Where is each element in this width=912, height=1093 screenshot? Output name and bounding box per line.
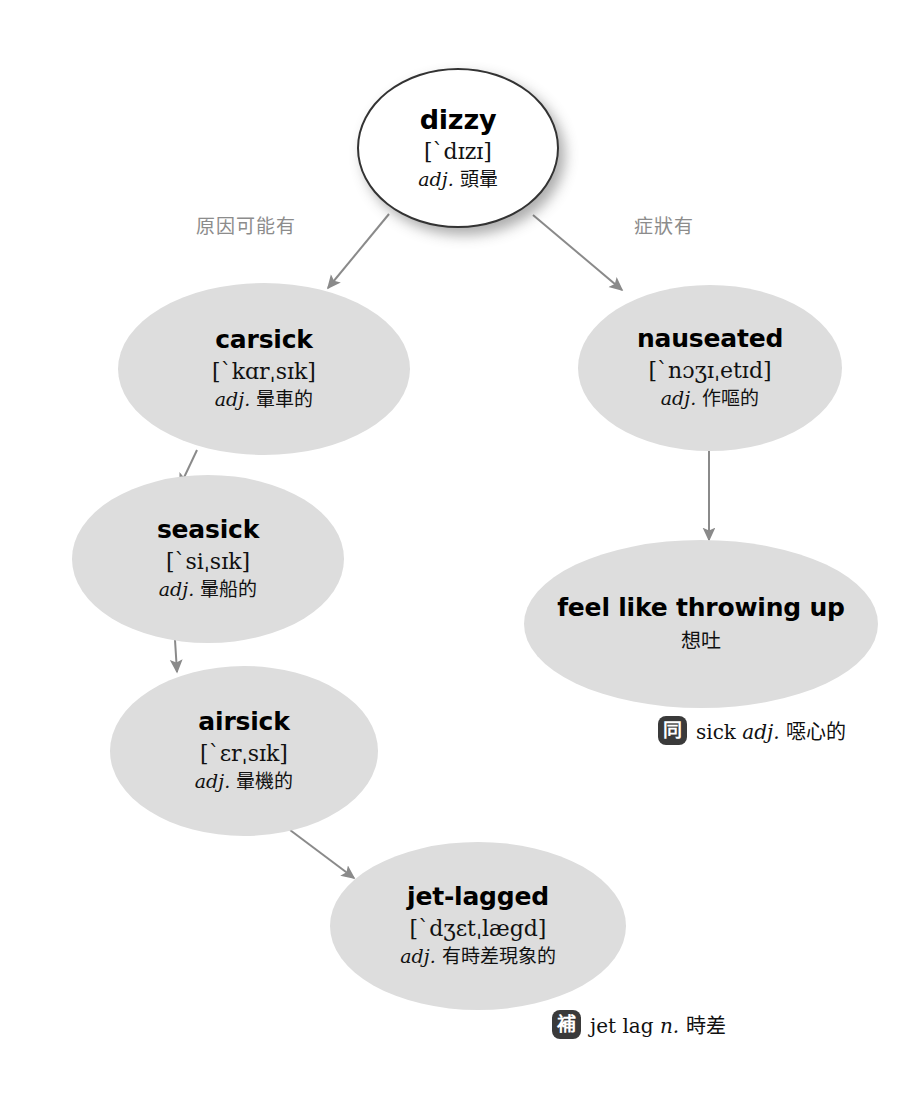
supplement-badge-icon: 補	[552, 1010, 581, 1039]
node-term: carsick	[215, 326, 313, 355]
node-pos: adj.	[400, 945, 435, 967]
node-airsick[interactable]: airsick [`ɛrˌsɪk] adj. 暈機的	[110, 666, 378, 836]
annotation-term: jet lag	[590, 1014, 654, 1038]
node-gloss-text: 有時差現象的	[442, 945, 556, 967]
annotation-gloss: 噁心的	[786, 720, 846, 744]
node-gloss: adj. 頭暈	[418, 167, 497, 192]
edge-seasick-to-airsick	[175, 640, 177, 672]
annotation-text: sick adj. 噁心的	[696, 716, 846, 745]
edge-dizzy-to-nauseated	[533, 215, 622, 290]
node-nauseated[interactable]: nauseated [`nɔʒɪˌetɪd] adj. 作嘔的	[578, 285, 842, 451]
node-gloss: adj. 暈船的	[159, 577, 257, 602]
node-phonetic: [`nɔʒɪˌetɪd]	[648, 357, 771, 385]
node-gloss-text: 暈機的	[236, 770, 293, 792]
node-term: feel like throwing up	[557, 594, 845, 623]
node-pos: adj.	[195, 770, 230, 792]
node-gloss: adj. 有時差現象的	[400, 944, 555, 969]
node-pos: adj.	[159, 578, 194, 600]
annotation-jet-lag: 補 jet lag n. 時差	[552, 1010, 726, 1039]
node-gloss-text: 作嘔的	[702, 387, 759, 409]
node-gloss: adj. 暈機的	[195, 769, 293, 794]
node-dizzy[interactable]: dizzy [`dɪzɪ] adj. 頭暈	[357, 68, 559, 228]
node-term: nauseated	[637, 325, 783, 354]
node-phonetic: [`dʒɛtˌlægd]	[410, 915, 547, 943]
node-term: seasick	[157, 516, 259, 545]
node-gloss-text: 暈船的	[200, 578, 257, 600]
annotation-term: sick	[696, 720, 736, 744]
annotation-text: jet lag n. 時差	[590, 1010, 726, 1039]
annotation-sick: 同 sick adj. 噁心的	[658, 716, 846, 745]
annotation-pos: n.	[660, 1014, 679, 1038]
node-gloss: adj. 作嘔的	[661, 386, 759, 411]
word-map-canvas: 原因可能有 症狀有 dizzy [`dɪzɪ] adj. 頭暈 carsick …	[0, 0, 912, 1093]
annotation-pos: adj.	[742, 720, 779, 744]
node-gloss-text: 頭暈	[460, 168, 498, 190]
edge-label-symptom: 症狀有	[634, 211, 694, 238]
node-pos: adj.	[418, 168, 453, 190]
annotation-gloss: 時差	[686, 1014, 726, 1038]
edge-dizzy-to-carsick	[328, 214, 389, 288]
node-phonetic: [`siˌsɪk]	[166, 548, 250, 576]
node-pos: adj.	[215, 388, 250, 410]
node-term: jet-lagged	[407, 883, 549, 912]
node-seasick[interactable]: seasick [`siˌsɪk] adj. 暈船的	[72, 475, 344, 643]
node-term: dizzy	[420, 104, 497, 135]
node-gloss: adj. 暈車的	[215, 387, 313, 412]
synonym-badge-icon: 同	[658, 716, 687, 745]
node-gloss: 想吐	[681, 628, 721, 654]
node-gloss-text: 暈車的	[256, 388, 313, 410]
edge-airsick-to-jetlagged	[290, 830, 354, 878]
node-phonetic: [`dɪzɪ]	[424, 138, 492, 166]
node-term: airsick	[198, 708, 289, 737]
node-feel-like-throwing-up[interactable]: feel like throwing up 想吐	[524, 540, 878, 708]
node-jet-lagged[interactable]: jet-lagged [`dʒɛtˌlægd] adj. 有時差現象的	[330, 842, 626, 1010]
node-phonetic: [`kɑrˌsɪk]	[212, 358, 316, 386]
edge-label-cause: 原因可能有	[196, 211, 296, 238]
node-pos: adj.	[661, 387, 696, 409]
node-phonetic: [`ɛrˌsɪk]	[200, 740, 288, 768]
node-carsick[interactable]: carsick [`kɑrˌsɪk] adj. 暈車的	[118, 283, 410, 455]
